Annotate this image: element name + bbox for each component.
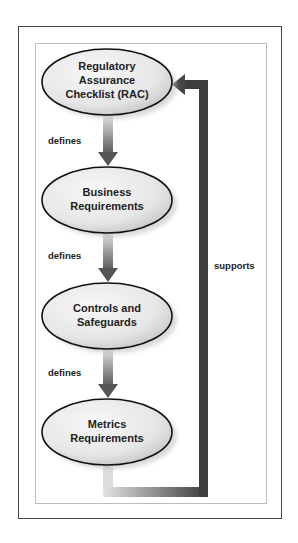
node-rac: Regulatory Assurance Checklist (RAC) [42, 49, 177, 119]
svg-text:Checklist (RAC): Checklist (RAC) [65, 88, 148, 100]
svg-text:Business: Business [83, 186, 132, 198]
defines-arrow-1 [98, 115, 118, 166]
defines-arrow-3 [98, 348, 118, 398]
edge-label-defines-1: defines [48, 135, 81, 146]
node-metrics-requirements: Metrics Requirements [42, 399, 177, 469]
svg-text:Assurance: Assurance [79, 74, 135, 86]
flow-diagram: Regulatory Assurance Checklist (RAC) Bus… [0, 0, 298, 543]
svg-text:Requirements: Requirements [70, 200, 143, 212]
edge-label-defines-2: defines [48, 250, 81, 261]
svg-text:Safeguards: Safeguards [77, 316, 137, 328]
svg-text:Controls and: Controls and [73, 302, 141, 314]
svg-text:Metrics: Metrics [88, 418, 127, 430]
svg-text:Requirements: Requirements [70, 432, 143, 444]
svg-text:Regulatory: Regulatory [78, 60, 136, 72]
edge-label-defines-3: defines [48, 367, 81, 378]
node-business-requirements: Business Requirements [42, 167, 177, 237]
edge-label-supports: supports [214, 260, 255, 271]
defines-arrow-2 [98, 232, 118, 282]
node-controls-safeguards: Controls and Safeguards [42, 283, 177, 353]
